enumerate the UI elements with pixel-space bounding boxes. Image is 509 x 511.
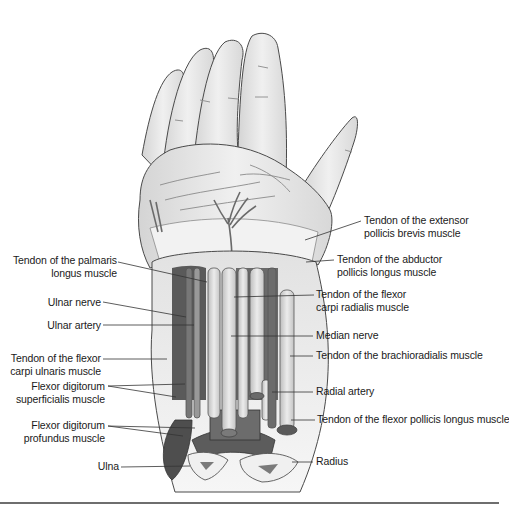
label-flexor-carpi-radialis-tendon: Tendon of the flexor carpi radialis musc…	[316, 288, 409, 314]
label-line: Radius	[316, 455, 348, 468]
label-median-nerve: Median nerve	[316, 329, 378, 342]
label-line: superficialis muscle	[0, 393, 105, 406]
bottom-divider	[0, 502, 499, 504]
label-flexor-carpi-ulnaris-tendon: Tendon of the flexor carpi ulnaris muscl…	[0, 352, 101, 378]
label-line: Tendon of the abductor	[337, 253, 442, 266]
label-flexor-digitorum-superficialis: Flexor digitorum superficialis muscle	[0, 380, 105, 406]
label-flexor-digitorum-profundus: Flexor digitorum profundus muscle	[0, 419, 105, 445]
label-radius: Radius	[316, 455, 348, 468]
label-radial-artery: Radial artery	[316, 385, 374, 398]
label-line: Tendon of the brachioradialis muscle	[316, 349, 483, 362]
label-line: longus muscle	[0, 267, 117, 280]
label-line: pollicis longus muscle	[337, 266, 442, 279]
label-line: Tendon of the extensor	[364, 214, 469, 227]
label-abductor-pollicis-longus-tendon: Tendon of the abductor pollicis longus m…	[337, 253, 442, 279]
label-ulna: Ulna	[0, 460, 119, 473]
label-ulnar-artery: Ulnar artery	[0, 319, 101, 332]
label-line: pollicis brevis muscle	[364, 227, 469, 240]
label-line: Median nerve	[316, 329, 378, 342]
label-line: Flexor digitorum	[0, 419, 105, 432]
label-line: Ulnar artery	[0, 319, 101, 332]
label-flexor-pollicis-longus-tendon: Tendon of the flexor pollicis longus mus…	[317, 413, 509, 426]
label-line: Tendon of the palmaris	[0, 254, 117, 267]
label-extensor-pollicis-brevis-tendon: Tendon of the extensor pollicis brevis m…	[364, 214, 469, 240]
label-line: profundus muscle	[0, 432, 105, 445]
label-line: Ulna	[0, 460, 119, 473]
label-line: Flexor digitorum	[0, 380, 105, 393]
label-line: carpi ulnaris muscle	[0, 365, 101, 378]
label-line: Tendon of the flexor	[316, 288, 409, 301]
label-ulnar-nerve: Ulnar nerve	[0, 296, 101, 309]
label-line: Ulnar nerve	[0, 296, 101, 309]
label-line: Tendon of the flexor pollicis longus mus…	[317, 413, 509, 426]
label-line: carpi radialis muscle	[316, 301, 409, 314]
label-palmaris-longus-tendon: Tendon of the palmaris longus muscle	[0, 254, 117, 280]
label-brachioradialis-tendon: Tendon of the brachioradialis muscle	[316, 349, 483, 362]
label-line: Radial artery	[316, 385, 374, 398]
label-line: Tendon of the flexor	[0, 352, 101, 365]
